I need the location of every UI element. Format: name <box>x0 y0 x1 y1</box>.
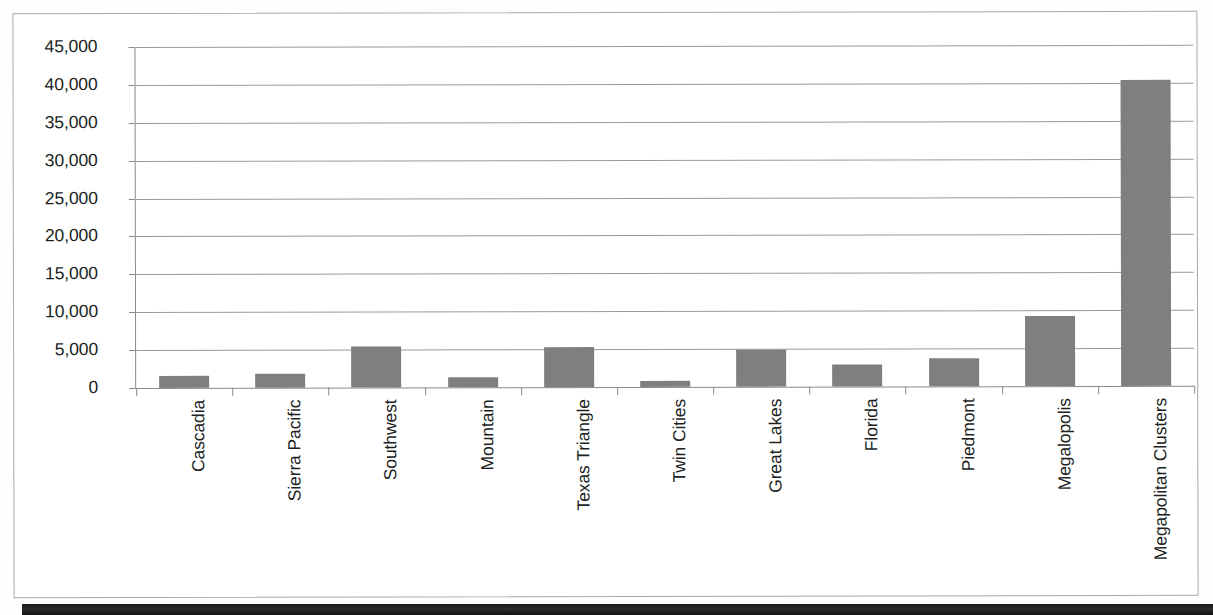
x-axis-category-labels: CascadiaSierra PacificSouthwestMountainT… <box>136 398 1194 600</box>
x-axis-label-twin-cities: Twin Cities <box>671 399 689 483</box>
y-tick-label: 15,000 <box>2 265 98 283</box>
y-tick-label: 30,000 <box>2 152 98 170</box>
bar[interactable] <box>544 347 594 387</box>
bar-slot <box>809 45 906 386</box>
x-label-slot: Piedmont <box>906 398 1003 598</box>
x-label-slot: Megalopolis <box>1002 398 1099 598</box>
bar[interactable] <box>448 377 498 387</box>
bar-slot <box>520 46 617 387</box>
x-label-slot: Sierra Pacific <box>232 400 329 600</box>
x-tick-mark <box>906 386 907 394</box>
y-tick-label: 40,000 <box>2 76 98 94</box>
x-axis-label-megalopolis: Megalopolis <box>1056 398 1074 490</box>
bar[interactable] <box>736 349 786 386</box>
x-tick-mark <box>136 388 137 396</box>
x-axis-label-cascadia: Cascadia <box>190 400 208 472</box>
x-axis-label-great-lakes: Great Lakes <box>767 399 785 493</box>
x-label-slot: Great Lakes <box>713 399 810 599</box>
x-tick-mark <box>1098 386 1099 394</box>
x-tick-mark <box>809 387 810 395</box>
chart-frame: 45,00040,00035,00030,00025,00020,00015,0… <box>12 11 1198 598</box>
y-tick-label: 0 <box>2 379 98 397</box>
bar-slot <box>232 47 329 388</box>
bar[interactable] <box>159 375 209 388</box>
bar[interactable] <box>832 364 882 386</box>
x-tick-mark <box>425 387 426 395</box>
x-axis-label-piedmont: Piedmont <box>960 398 978 471</box>
y-tick-label: 35,000 <box>2 114 98 132</box>
x-tick-mark <box>617 387 618 395</box>
x-label-slot: Cascadia <box>136 400 233 600</box>
x-tick-mark <box>232 388 233 396</box>
y-tick-label: 25,000 <box>2 190 98 208</box>
bar-slot <box>1001 45 1098 386</box>
scanned-page: 45,00040,00035,00030,00025,00020,00015,0… <box>0 0 1213 615</box>
x-axis-label-sierra-pacific: Sierra Pacific <box>286 400 304 502</box>
x-axis-label-megapolitan-clusters: Megapolitan Clusters <box>1152 398 1170 560</box>
y-axis-tick-labels: 45,00040,00035,00030,00025,00020,00015,0… <box>13 12 1196 14</box>
x-label-slot: Florida <box>809 398 906 598</box>
bar[interactable] <box>929 358 979 386</box>
y-axis-tick-marks <box>13 12 1196 14</box>
x-axis-tick-marks <box>136 386 1194 396</box>
x-tick-mark <box>1002 386 1003 394</box>
bar-slot <box>616 46 713 387</box>
x-label-slot: Mountain <box>425 399 522 599</box>
bar[interactable] <box>1120 80 1171 386</box>
y-tick-label: 45,000 <box>1 38 97 56</box>
bar[interactable] <box>1025 316 1075 386</box>
bar-slot <box>1097 45 1194 386</box>
bar-slot <box>328 46 425 387</box>
x-axis-label-mountain: Mountain <box>479 399 497 470</box>
bar-slot <box>424 46 521 387</box>
bar-slot <box>905 45 1002 386</box>
bar[interactable] <box>352 347 402 388</box>
bars-layer <box>135 45 1194 388</box>
bar-slot <box>713 46 810 387</box>
bar[interactable] <box>255 374 305 388</box>
x-axis-label-florida: Florida <box>864 398 882 451</box>
y-tick-label: 5,000 <box>2 341 98 359</box>
bar-slot <box>135 47 232 388</box>
x-tick-mark <box>713 387 714 395</box>
x-axis-label-southwest: Southwest <box>383 399 401 480</box>
x-label-slot: Twin Cities <box>617 399 714 599</box>
x-label-slot: Southwest <box>329 399 426 599</box>
x-tick-mark <box>1194 386 1195 394</box>
x-label-slot: Megapolitan Clusters <box>1098 398 1195 598</box>
x-axis-label-texas-triangle: Texas Triangle <box>575 399 593 510</box>
y-tick-label: 20,000 <box>2 228 98 246</box>
x-tick-mark <box>521 387 522 395</box>
x-label-slot: Texas Triangle <box>521 399 618 599</box>
page-edge-band <box>22 604 1213 615</box>
x-tick-mark <box>329 388 330 396</box>
y-tick-label: 10,000 <box>2 303 98 321</box>
